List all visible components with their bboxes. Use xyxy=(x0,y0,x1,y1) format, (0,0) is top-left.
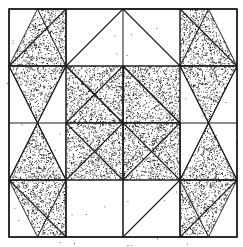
quilt-canvas xyxy=(0,0,243,247)
quilt-block-diagram xyxy=(0,0,243,247)
